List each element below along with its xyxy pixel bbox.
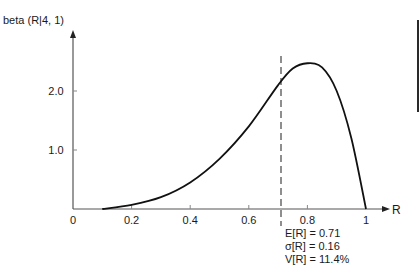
x-tick-1: 1	[363, 214, 369, 226]
x-tick-0.8: 0.8	[300, 214, 315, 226]
x-tick-0.4: 0.4	[183, 214, 198, 226]
beta-density-curve	[102, 63, 366, 209]
y-tick-2.0: 2.0	[48, 85, 63, 97]
mean-stat: E[R] = 0.71	[285, 227, 349, 240]
x-tick-0: 0	[70, 214, 76, 226]
x-tick-0.6: 0.6	[241, 214, 256, 226]
stats-annotation: E[R] = 0.71 σ[R] = 0.16 V[R] = 11.4%	[285, 227, 349, 266]
x-axis-arrow-icon	[382, 206, 390, 212]
x-tick-labels: 0 0.2 0.4 0.6 0.8 1	[70, 214, 369, 226]
x-tick-0.2: 0.2	[124, 214, 139, 226]
variance-stat: V[R] = 11.4%	[285, 253, 349, 266]
y-tick-1.0: 1.0	[48, 144, 63, 156]
y-axis-arrow-icon	[70, 30, 76, 38]
beta-density-chart: 0 0.2 0.4 0.6 0.8 1 1.0 2.0	[0, 0, 419, 280]
sigma-stat: σ[R] = 0.16	[285, 240, 349, 253]
